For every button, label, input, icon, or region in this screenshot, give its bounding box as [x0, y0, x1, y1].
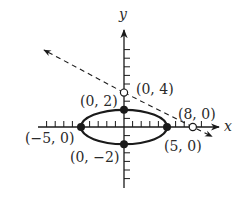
point-0-neg2: [120, 140, 128, 148]
label-8-0: (8, 0): [178, 106, 216, 122]
label-0-2: (0, 2): [80, 93, 118, 109]
y-axis-label: y: [118, 6, 128, 22]
coordinate-plane: x y (0, 4) (0, 2) (8, 0) (−5: [0, 0, 245, 199]
point-5-0: [163, 123, 171, 131]
open-point-8-0: [189, 123, 196, 130]
open-point-0-4: [120, 89, 127, 96]
point-0-2: [120, 106, 128, 114]
label-0-4: (0, 4): [136, 81, 174, 97]
label-5-0: (5, 0): [164, 138, 202, 154]
label-0-neg2: (0, −2): [70, 149, 119, 165]
point-neg5-0: [77, 123, 85, 131]
label-neg5-0: (−5, 0): [25, 130, 74, 146]
x-axis-label: x: [224, 118, 232, 134]
